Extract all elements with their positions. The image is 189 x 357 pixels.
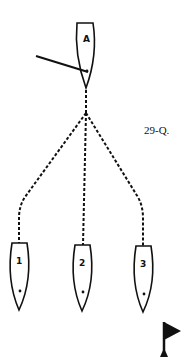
boat-a-label: A [83,34,90,44]
figure-label: 29-Q. [144,124,169,136]
boat-2-label: 2 [79,258,85,268]
dashed-paths [19,90,143,246]
boat-3-label: 3 [140,259,146,269]
boat-2 [73,245,92,311]
mark-flag-icon [160,322,181,357]
boat-1 [10,243,29,310]
boat-3 [134,246,153,312]
boat-a [76,23,94,88]
boat-1-label: 1 [16,256,22,266]
diagram-canvas [0,0,189,357]
